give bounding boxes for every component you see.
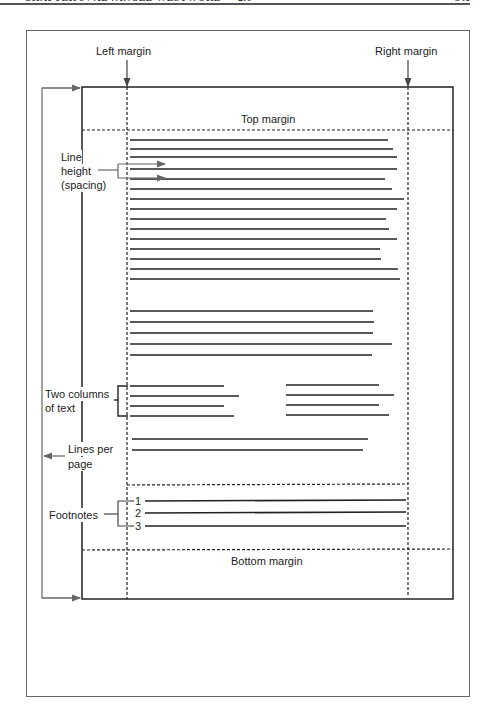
left-margin-label: Left margin: [96, 44, 151, 58]
line-height-indicator: [98, 164, 165, 178]
right-margin-label: Right margin: [375, 44, 437, 58]
line-height-label-3: (spacing): [61, 178, 106, 192]
two-columns-bracket: [118, 386, 128, 416]
lines-per-page-label-2: page: [68, 457, 92, 471]
text-block-1: [130, 140, 404, 279]
bottom-margin-label: Bottom margin: [231, 554, 303, 568]
text-block-3: [132, 439, 368, 450]
bottom-margin-line: [82, 549, 453, 550]
footnotes-bracket: [104, 501, 134, 526]
line-height-label-1: Line: [61, 150, 82, 164]
two-columns-label-2: of text: [45, 401, 75, 415]
line-height-label-2: height: [61, 164, 91, 178]
top-margin-label: Top margin: [241, 112, 295, 126]
two-columns-label-1: Two columns: [45, 387, 109, 401]
page-layout-diagram: [0, 0, 493, 713]
footnote-number-2: 2: [135, 506, 141, 520]
text-block-2: [130, 311, 392, 355]
footnote-separator: [127, 484, 408, 485]
footnote-number-3: 3: [135, 519, 141, 533]
footnote-lines: [145, 500, 406, 526]
two-columns: [130, 385, 394, 416]
footnotes-label: Footnotes: [49, 508, 98, 522]
lines-per-page-label-1: Lines per: [68, 442, 113, 456]
